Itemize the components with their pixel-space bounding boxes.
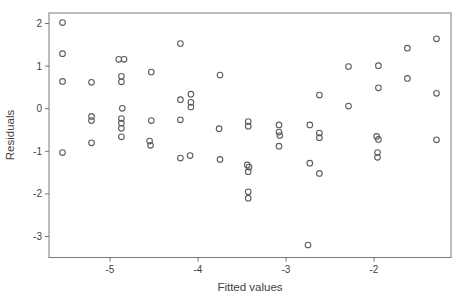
data-point <box>178 97 184 103</box>
data-point <box>178 41 184 47</box>
data-point <box>60 79 66 85</box>
y-tick-label: -3 <box>33 231 42 242</box>
data-point <box>216 126 222 132</box>
x-tick-label: -5 <box>106 264 115 275</box>
data-point <box>60 20 66 26</box>
data-point <box>317 92 323 98</box>
data-point <box>245 195 251 201</box>
data-point <box>346 64 352 70</box>
data-point <box>188 91 194 97</box>
data-point <box>405 76 411 82</box>
data-point <box>187 153 193 159</box>
x-tick-label: -2 <box>370 264 379 275</box>
data-point <box>89 140 95 146</box>
x-tick-label: -3 <box>282 264 291 275</box>
data-point <box>376 63 382 69</box>
data-point <box>276 122 282 128</box>
data-point <box>178 117 184 123</box>
data-point <box>149 118 155 124</box>
plot-canvas: Fitted values Residuals -5-4-3-2-3-2-101… <box>0 0 466 303</box>
data-point <box>307 122 313 128</box>
plot-box <box>49 13 451 258</box>
data-point <box>317 171 323 177</box>
residuals-vs-fitted-plot: Fitted values Residuals -5-4-3-2-3-2-101… <box>0 0 466 303</box>
data-point <box>178 155 184 161</box>
data-point <box>276 143 282 149</box>
data-point <box>434 36 440 42</box>
y-tick-label: 2 <box>36 18 42 29</box>
data-point <box>277 133 283 139</box>
data-point <box>149 69 155 75</box>
data-point <box>217 72 223 78</box>
data-point <box>346 103 352 109</box>
y-tick-label: -1 <box>33 146 42 157</box>
data-point <box>376 85 382 91</box>
data-point <box>89 118 95 124</box>
data-point <box>434 91 440 97</box>
data-point <box>119 134 125 140</box>
y-tick-label: -2 <box>33 188 42 199</box>
data-point <box>245 189 251 195</box>
data-point <box>305 242 311 248</box>
data-point <box>217 157 223 163</box>
data-point <box>434 137 440 143</box>
data-point <box>119 74 125 80</box>
data-point <box>120 106 126 112</box>
data-point <box>119 79 125 85</box>
data-point <box>307 160 313 166</box>
data-point <box>60 150 66 156</box>
y-axis-label: Residuals <box>4 110 16 161</box>
data-point <box>60 51 66 57</box>
y-tick-label: 0 <box>36 103 42 114</box>
y-tick-label: 1 <box>36 61 42 72</box>
data-point <box>405 45 411 51</box>
data-point <box>89 80 95 86</box>
x-tick-label: -4 <box>194 264 203 275</box>
x-axis-label: Fitted values <box>217 281 282 293</box>
